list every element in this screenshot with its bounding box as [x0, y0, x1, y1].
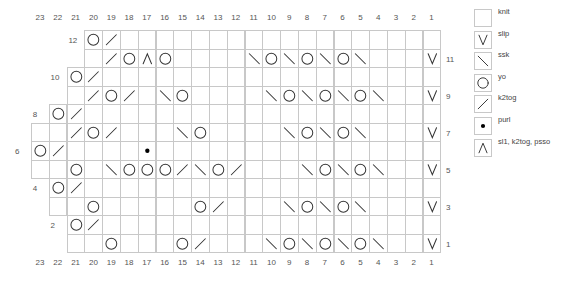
stitch-cell-yo: [49, 178, 68, 198]
stitch-cell-ssk: [298, 160, 317, 180]
stitch-cell-knit: [262, 141, 281, 161]
stitch-cell-knit: [173, 197, 192, 217]
stitch-cell-knit: [387, 67, 406, 87]
stitch-cell-knit: [298, 104, 317, 124]
column-label: 21: [67, 258, 85, 267]
stitch-cell-knit: [387, 215, 406, 235]
stitch-cell-knit: [405, 123, 424, 143]
stitch-cell-k2tog: [120, 86, 139, 106]
stitch-cell-knit: [138, 104, 157, 124]
stitch-cell-knit: [84, 49, 103, 69]
stitch-cell-knit: [156, 67, 175, 87]
yo-icon: [121, 50, 138, 68]
stitch-cell-knit: [280, 178, 299, 198]
column-label: 2: [405, 13, 423, 22]
stitch-cell-knit: [84, 141, 103, 161]
stitch-cell-knit: [209, 86, 228, 106]
stitch-cell-purl: [138, 141, 157, 161]
stitch-cell-yo: [138, 160, 157, 180]
slip-icon: [424, 198, 441, 216]
ssk-icon: [474, 52, 492, 70]
stitch-cell-yo: [334, 123, 353, 143]
yo-icon: [299, 50, 316, 68]
stitch-cell-knit: [369, 178, 388, 198]
stitch-cell-knit: [138, 123, 157, 143]
stitch-cell-knit: [102, 178, 121, 198]
column-label: 19: [102, 13, 120, 22]
yo-icon: [352, 235, 369, 253]
stitch-cell-ssk: [262, 234, 281, 254]
stitch-cell-yo: [67, 67, 86, 87]
knit-icon: [474, 9, 492, 27]
yo-icon: [68, 216, 85, 234]
stitch-cell-knit: [209, 234, 228, 254]
stitch-cell-knit: [423, 30, 442, 50]
stitch-cell-yo: [298, 123, 317, 143]
yo-icon: [85, 31, 102, 49]
stitch-cell-yo: [280, 86, 299, 106]
ssk-icon: [317, 50, 334, 68]
stitch-cell-knit: [227, 49, 246, 69]
slip-icon: [424, 50, 441, 68]
purl-icon: [139, 142, 156, 160]
yo-icon: [50, 105, 67, 123]
stitch-cell-knit: [102, 215, 121, 235]
stitch-cell-knit: [120, 178, 139, 198]
legend-label: sl1, k2tog, psso: [498, 137, 550, 146]
column-label: 12: [227, 258, 245, 267]
stitch-cell-knit: [173, 141, 192, 161]
stitch-cell-knit: [423, 67, 442, 87]
column-label: 4: [369, 258, 387, 267]
k2tog-icon: [68, 105, 85, 123]
stitch-cell-knit: [351, 215, 370, 235]
stitch-cell-knit: [156, 123, 175, 143]
stitch-cell-yo: [173, 86, 192, 106]
stitch-cell-knit: [369, 104, 388, 124]
k2tog-icon: [228, 161, 245, 179]
stitch-cell-knit: [387, 234, 406, 254]
stitch-cell-ssk: [369, 160, 388, 180]
ssk-icon: [157, 87, 174, 105]
stitch-cell-knit: [120, 141, 139, 161]
stitch-cell-knit: [102, 197, 121, 217]
stitch-cell-yo: [31, 141, 50, 161]
stitch-cell-knit: [191, 49, 210, 69]
stitch-cell-knit: [369, 67, 388, 87]
ssk-icon: [281, 198, 298, 216]
stitch-cell-yo: [84, 197, 103, 217]
stitch-cell-yo: [156, 49, 175, 69]
stitch-cell-knit: [334, 141, 353, 161]
column-label: 9: [280, 258, 298, 267]
yo-icon: [281, 87, 298, 105]
legend-label: purl: [498, 115, 511, 124]
stitch-cell-knit: [120, 234, 139, 254]
k2tog-icon: [121, 87, 138, 105]
stitch-cell-knit: [298, 141, 317, 161]
stitch-cell-k2tog: [102, 49, 121, 69]
yo-icon: [103, 87, 120, 105]
yo-icon: [317, 235, 334, 253]
stitch-cell-yo: [262, 49, 281, 69]
stitch-cell-knit: [262, 67, 281, 87]
yo-icon: [335, 50, 352, 68]
stitch-cell-knit: [405, 215, 424, 235]
stitch-cell-knit: [156, 141, 175, 161]
stitch-cell-knit: [387, 86, 406, 106]
column-label: 22: [49, 258, 67, 267]
row-label: 7: [446, 129, 450, 138]
ssk-icon: [352, 50, 369, 68]
stitch-cell-knit: [120, 197, 139, 217]
column-label: 1: [423, 13, 441, 22]
slip-icon: [424, 161, 441, 179]
stitch-cell-k2tog: [209, 197, 228, 217]
stitch-cell-ssk: [316, 123, 335, 143]
yo-icon: [68, 161, 85, 179]
ssk-icon: [335, 235, 352, 253]
stitch-cell-ssk: [280, 197, 299, 217]
stitch-cell-knit: [316, 215, 335, 235]
stitch-cell-knit: [173, 215, 192, 235]
stitch-cell-k2tog: [67, 104, 86, 124]
stitch-cell-knit: [334, 215, 353, 235]
yo-icon: [335, 198, 352, 216]
column-label: 15: [173, 13, 191, 22]
